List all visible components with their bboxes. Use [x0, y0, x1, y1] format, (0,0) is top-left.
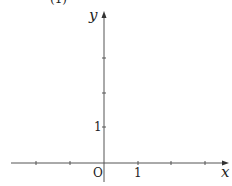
y-axis-label: y — [88, 6, 98, 24]
coordinate-plane: (1) y x O 1 1 — [0, 0, 232, 186]
x-unit-label: 1 — [134, 166, 142, 180]
x-axis-label: x — [221, 163, 230, 181]
y-unit-label: 1 — [94, 120, 102, 134]
x-axis — [11, 161, 229, 166]
part-label: (1) — [50, 0, 67, 6]
y-axis-arrow-icon — [102, 11, 107, 18]
y-axis — [102, 11, 107, 182]
origin-label: O — [93, 166, 103, 180]
